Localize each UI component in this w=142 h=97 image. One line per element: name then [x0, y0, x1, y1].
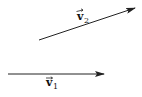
vector-diagram: v 2 v 1: [0, 0, 142, 97]
vector-v2-label: v 2: [76, 9, 89, 25]
vector-v1: v 1: [8, 74, 104, 91]
vector-v1-label: v 1: [45, 76, 58, 91]
vector-v1-subscript: 1: [53, 82, 58, 91]
vector-v2-subscript: 2: [84, 16, 89, 25]
vector-v2-symbol: v: [76, 10, 84, 23]
vector-v2: v 2: [39, 8, 135, 40]
